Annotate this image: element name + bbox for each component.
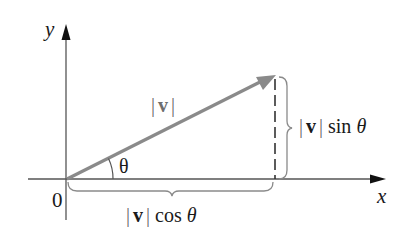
abs-bar-right: | <box>171 94 175 116</box>
cos-function: cos <box>155 204 182 226</box>
angle-theta-label: θ <box>119 156 129 176</box>
abs-bar-left: | <box>299 115 303 137</box>
abs-bar-right: | <box>146 204 150 226</box>
vector-symbol: v <box>158 94 168 116</box>
angle-arc <box>109 159 114 180</box>
y-axis <box>62 24 71 220</box>
x-axis-arrow-icon <box>370 175 386 184</box>
sin-function: sin <box>328 115 351 137</box>
vector-v <box>67 75 276 179</box>
vector-symbol: v <box>133 204 143 226</box>
abs-bar-right: | <box>319 115 323 137</box>
x-axis <box>28 175 386 184</box>
vector-components-diagram: y x 0 |v| θ |v| sin θ |v| cos θ <box>0 0 412 240</box>
origin-label: 0 <box>52 190 63 211</box>
y-axis-label: y <box>45 19 54 40</box>
theta-symbol: θ <box>356 115 366 137</box>
x-axis-label: x <box>377 186 386 207</box>
horizontal-component-brace <box>68 182 273 196</box>
vector-symbol: v <box>306 115 316 137</box>
vector-arrowhead-icon <box>256 75 276 90</box>
abs-bar-left: | <box>151 94 155 116</box>
vertical-component-label: |v| sin θ <box>299 116 366 136</box>
abs-bar-left: | <box>126 204 130 226</box>
y-axis-arrow-icon <box>62 24 71 40</box>
horizontal-component-label: |v| cos θ <box>126 205 197 225</box>
vector-magnitude-label: |v| <box>151 95 175 115</box>
theta-symbol: θ <box>187 204 197 226</box>
vertical-component-brace <box>279 77 292 179</box>
